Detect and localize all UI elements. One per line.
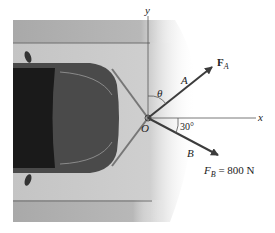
diagram-canvas	[0, 0, 275, 233]
car	[13, 50, 119, 186]
force-a-label: FA	[217, 57, 229, 71]
cable-b-label: B	[187, 148, 194, 159]
thirty-degree-label: 30°	[180, 122, 194, 132]
x-axis-label: x	[258, 112, 263, 123]
force-a-symbol: F	[217, 56, 224, 68]
force-b-subscript: B	[211, 170, 216, 179]
origin-label: O	[141, 123, 149, 134]
force-b-label: FB = 800 N	[204, 165, 255, 179]
force-b-magnitude: = 800 N	[218, 164, 254, 176]
force-b-symbol: F	[204, 164, 211, 176]
theta-angle-label: θ	[157, 88, 162, 99]
y-axis-label: y	[145, 5, 150, 16]
cable-a-label: A	[181, 75, 188, 86]
force-a-subscript: A	[224, 62, 229, 71]
